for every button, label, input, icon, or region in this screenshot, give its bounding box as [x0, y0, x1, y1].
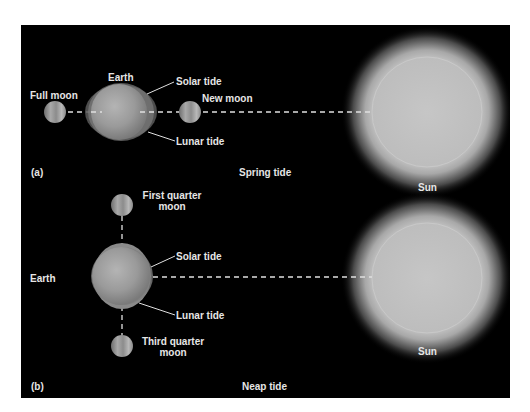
third-quarter-moon-label-line1: Third quarter	[142, 336, 204, 347]
solar-tide-leader	[147, 82, 174, 94]
neap-tide-caption: Neap tide	[242, 381, 287, 392]
lunar-tide-label-spring: Lunar tide	[176, 136, 224, 147]
earth-neap	[92, 247, 150, 305]
tides-diagram	[21, 25, 510, 398]
diagram-panel: Earth Full moon Solar tide New moon Luna…	[21, 25, 510, 398]
first-quarter-moon-label-line2: moon	[158, 201, 185, 212]
figure-canvas: Earth Full moon Solar tide New moon Luna…	[0, 0, 530, 412]
sun-disk-neap	[372, 223, 482, 333]
solar-tide-leader-neap	[151, 256, 175, 267]
lunar-tide-leader-neap	[139, 303, 175, 315]
earth-spring	[91, 84, 147, 140]
sun-disk-spring	[372, 57, 482, 167]
lunar-tide-label-neap: Lunar tide	[176, 310, 224, 321]
lunar-tide-leader	[148, 132, 175, 141]
earth-label-neap: Earth	[30, 273, 56, 284]
third-quarter-moon	[111, 335, 133, 357]
spring-tide-caption: Spring tide	[239, 167, 291, 178]
first-quarter-moon-label-line1: First quarter	[143, 190, 202, 201]
new-moon-label: New moon	[202, 93, 253, 104]
first-quarter-moon-label: First quarter moon	[137, 190, 207, 212]
first-quarter-moon	[111, 194, 133, 216]
sun-label-spring: Sun	[418, 182, 437, 193]
solar-tide-label-spring: Solar tide	[176, 76, 222, 87]
third-quarter-moon-label: Third quarter moon	[138, 336, 208, 358]
panel-tag-a: (a)	[31, 167, 43, 178]
full-moon-label: Full moon	[30, 90, 78, 101]
full-moon	[44, 101, 66, 123]
earth-label-spring: Earth	[108, 72, 134, 83]
new-moon	[179, 101, 201, 123]
third-quarter-moon-label-line2: moon	[159, 347, 186, 358]
solar-tide-label-neap: Solar tide	[176, 251, 222, 262]
panel-tag-b: (b)	[31, 381, 44, 392]
sun-label-neap: Sun	[418, 346, 437, 357]
